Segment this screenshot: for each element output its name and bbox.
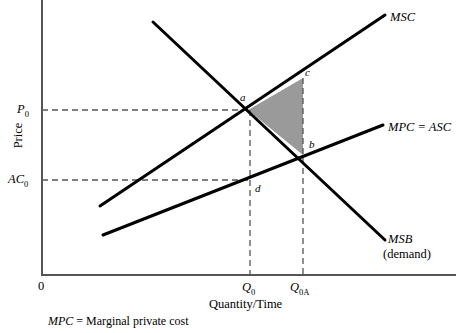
curve-label-mpc-asc: MPC = ASC: [388, 121, 451, 134]
y-tick-ac0-sub: 0: [24, 179, 28, 189]
x-tick-q0a-base: Q: [290, 280, 299, 294]
economics-externality-diagram: [0, 0, 456, 333]
x-tick-q0a: Q0A: [290, 281, 309, 296]
point-label-d: d: [255, 183, 261, 194]
y-tick-ac0-base: AC: [8, 172, 24, 186]
curve-sublabel-msb-demand: (demand): [383, 248, 431, 261]
y-tick-p0-base: P: [17, 102, 25, 116]
point-label-b: b: [309, 139, 315, 150]
curve-label-msb: MSB: [388, 233, 412, 246]
x-axis-title: Quantity/Time: [209, 298, 282, 311]
curve-msb-demand: [153, 22, 385, 240]
curve-label-msc: MSC: [390, 11, 415, 24]
y-tick-p0: P0: [17, 103, 29, 118]
figure-caption: MPC = Marginal private cost: [48, 315, 189, 327]
figure-caption-rest: = Marginal private cost: [73, 314, 188, 328]
x-tick-q0-sub: 0: [251, 287, 255, 297]
figure-canvas: Price P0 AC0 0 Q0 Q0A Quantity/Time MSC …: [0, 0, 456, 333]
point-label-a: a: [240, 92, 246, 103]
x-tick-q0a-sub: 0A: [299, 287, 309, 297]
y-tick-ac0: AC0: [8, 173, 28, 188]
point-label-c: c: [305, 67, 310, 78]
figure-caption-term: MPC: [48, 314, 73, 328]
x-tick-q0: Q0: [242, 281, 255, 296]
x-tick-q0-base: Q: [242, 280, 251, 294]
y-tick-p0-sub: 0: [25, 109, 29, 119]
origin-label: 0: [38, 280, 44, 293]
